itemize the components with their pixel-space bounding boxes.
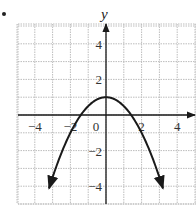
parabola-graph: −4−202442−2−4 y [0,0,196,214]
x-tick-label: 4 [174,119,181,134]
y-tick-label: −2 [88,144,102,159]
y-tick-label: 4 [96,37,103,52]
x-tick-label: −4 [28,119,42,134]
x-tick-label: 0 [93,119,100,134]
y-tick-label: −4 [88,179,102,194]
y-tick-label: 2 [96,72,103,87]
y-axis-label: y [99,6,108,22]
axes [18,24,195,204]
